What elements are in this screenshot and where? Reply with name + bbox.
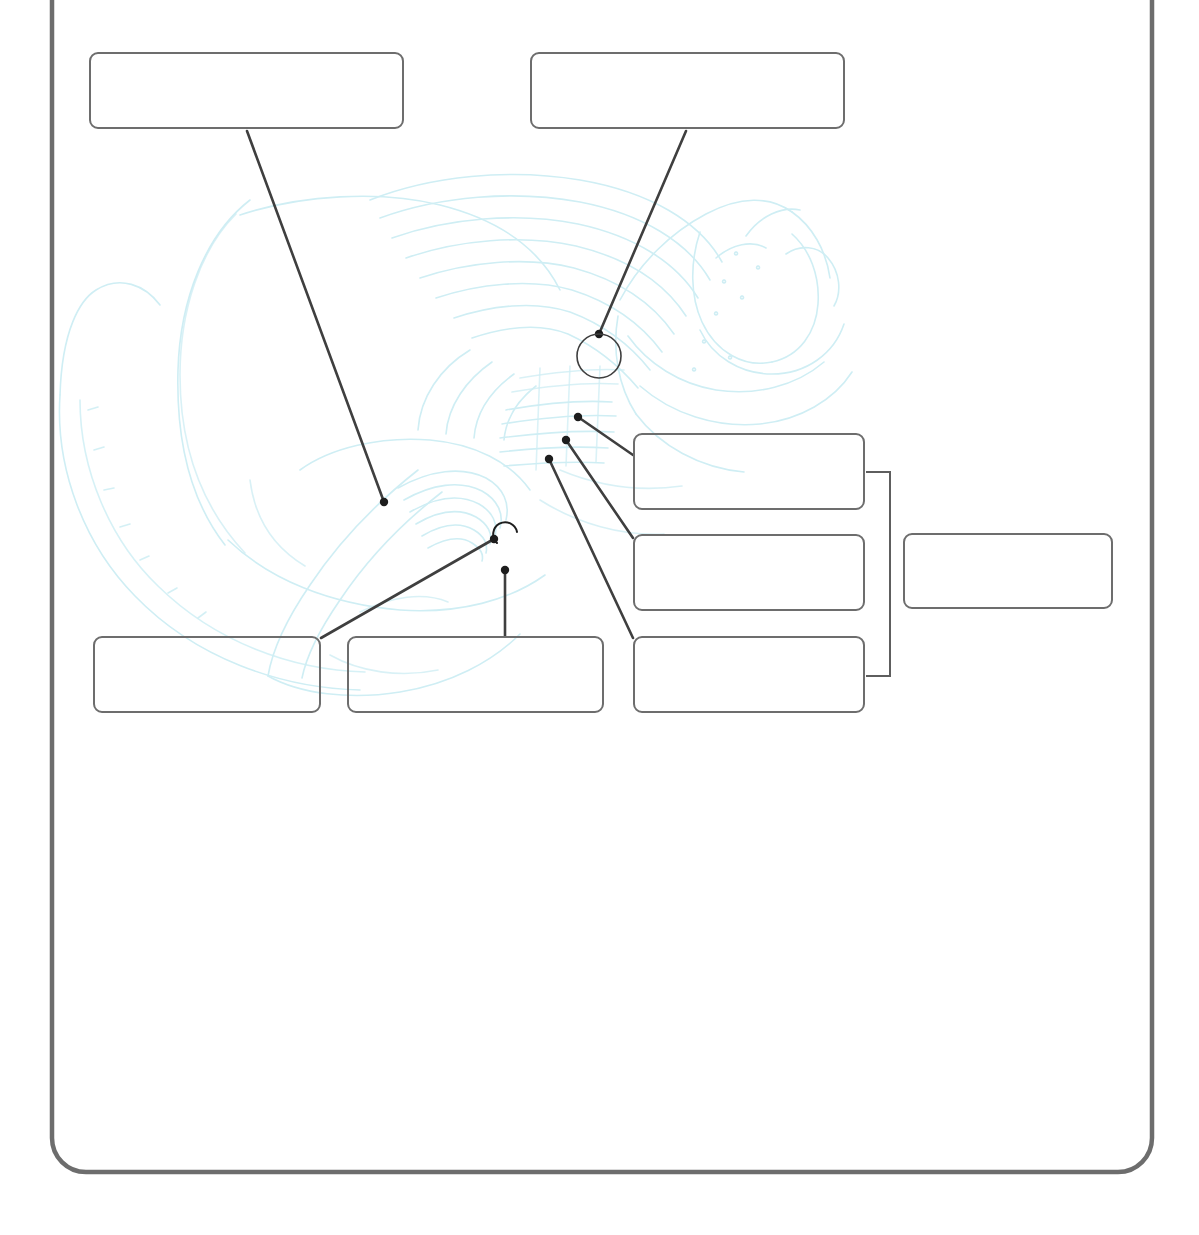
leader-line-3	[578, 417, 633, 455]
worksheet-page	[0, 0, 1199, 1235]
leader-dot-4	[562, 436, 570, 444]
leader-dot-7	[501, 566, 509, 574]
label-box-8[interactable]	[347, 636, 604, 713]
leader-line-2	[599, 131, 686, 334]
leader-dot-1	[380, 498, 388, 506]
leader-line-4	[566, 440, 633, 538]
leader-line-1	[247, 131, 384, 502]
label-box-7[interactable]	[93, 636, 321, 713]
leader-line-6	[321, 539, 494, 638]
worksheet-canvas	[0, 0, 1199, 1235]
label-box-4[interactable]	[633, 534, 865, 611]
leader-dot-5	[545, 455, 553, 463]
grouping-bracket	[866, 472, 890, 676]
label-box-5[interactable]	[633, 636, 865, 713]
label-box-1[interactable]	[89, 52, 404, 129]
label-box-2[interactable]	[530, 52, 845, 129]
label-box-6[interactable]	[903, 533, 1113, 609]
label-box-3[interactable]	[633, 433, 865, 510]
leader-dot-3	[574, 413, 582, 421]
